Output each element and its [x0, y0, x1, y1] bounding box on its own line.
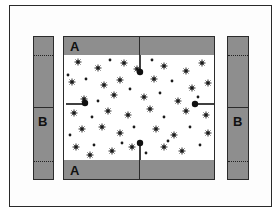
speckled-field: [63, 55, 215, 160]
right-edge-marker-icon: [192, 101, 214, 107]
bottom-strip-a: A: [63, 159, 215, 180]
speckle-pattern: [64, 55, 215, 160]
right-strip-label: B: [233, 115, 242, 128]
right-strip-dotted-line-bottom: [228, 161, 248, 162]
left-strip-b: B: [33, 36, 54, 180]
top-strip-center-divider: [139, 37, 140, 55]
left-edge-marker-icon: [66, 100, 88, 106]
right-strip-b: B: [227, 36, 249, 180]
top-strip-label: A: [70, 40, 79, 53]
bottom-strip-label: A: [70, 164, 79, 177]
left-strip-dotted-line-top: [34, 55, 53, 56]
left-strip-center-line: [34, 107, 53, 108]
left-strip-dotted-line-bottom: [34, 161, 53, 162]
right-strip-center-line: [228, 107, 248, 108]
right-strip-dotted-line-top: [228, 55, 248, 56]
left-strip-label: B: [38, 115, 47, 128]
bottom-strip-center-divider: [139, 160, 140, 179]
top-strip-a: A: [63, 36, 215, 56]
top-center-marker-icon: [137, 55, 143, 75]
bottom-center-marker-icon: [137, 140, 143, 160]
